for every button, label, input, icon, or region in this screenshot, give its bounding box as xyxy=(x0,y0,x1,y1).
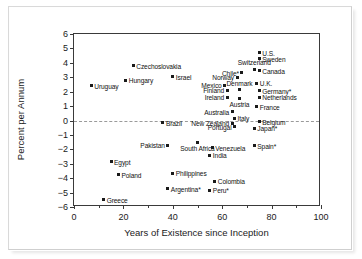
data-point xyxy=(255,105,258,108)
data-point-label: Uruguay xyxy=(94,82,118,89)
x-tick xyxy=(123,205,124,209)
data-point xyxy=(161,121,164,124)
y-tick xyxy=(70,92,74,93)
data-point xyxy=(253,144,256,147)
data-point xyxy=(226,96,229,99)
data-point xyxy=(171,172,174,175)
y-tick-label: −6 xyxy=(58,202,68,212)
data-point-label: Venezuela xyxy=(215,144,245,151)
data-point xyxy=(124,79,127,82)
data-point-label: Argentina* xyxy=(171,185,201,192)
y-tick-label: −3 xyxy=(58,159,68,169)
x-tick-label: 100 xyxy=(313,212,328,222)
y-tick xyxy=(70,48,74,49)
data-point-label: Ireland xyxy=(205,94,224,101)
y-tick xyxy=(70,77,74,78)
data-point xyxy=(258,51,261,54)
data-point xyxy=(238,97,241,100)
data-point xyxy=(231,110,234,113)
x-tick xyxy=(173,205,174,209)
data-point xyxy=(90,84,93,87)
data-point xyxy=(213,180,216,183)
data-point xyxy=(253,68,256,71)
y-tick-label: 5 xyxy=(63,43,68,53)
plot-area: 6543210−1−2−3−4−5−6 020406080100 Uruguay… xyxy=(73,33,320,206)
data-point-label: Portugal xyxy=(208,123,232,130)
data-point xyxy=(171,75,174,78)
y-tick xyxy=(70,164,74,165)
data-point xyxy=(110,160,113,163)
data-point xyxy=(238,88,241,91)
data-point xyxy=(208,189,211,192)
data-point-label: Hungary xyxy=(129,77,153,84)
data-point xyxy=(208,154,211,157)
y-tick-label: −5 xyxy=(58,188,68,198)
data-point xyxy=(258,89,261,92)
figure-root: Percent per Annum 6543210−1−2−3−4−5−6 02… xyxy=(0,0,362,259)
data-point-label: India xyxy=(213,152,227,159)
x-tick xyxy=(321,205,322,209)
data-point-label: Czechoslovakia xyxy=(136,62,181,69)
data-point xyxy=(166,144,169,147)
data-point xyxy=(258,69,261,72)
y-tick-label: −1 xyxy=(58,130,68,140)
y-tick-label: −2 xyxy=(58,144,68,154)
data-point xyxy=(255,82,258,85)
data-point xyxy=(236,76,239,79)
data-point-label: Peru* xyxy=(213,187,229,194)
y-tick-label: 2 xyxy=(63,87,68,97)
data-point-label: Poland xyxy=(121,171,141,178)
data-point-label: Colombia xyxy=(218,178,245,185)
data-point xyxy=(117,173,120,176)
data-point-label: South Africa xyxy=(180,145,214,152)
data-point-label: Austria xyxy=(230,101,250,108)
data-point-label: Switzerland xyxy=(238,59,271,66)
x-tick-label: 40 xyxy=(168,212,178,222)
data-point xyxy=(233,125,236,128)
y-axis-title-text: Percent per Annum xyxy=(16,79,27,160)
y-tick-label: 1 xyxy=(63,101,68,111)
y-tick-label: 0 xyxy=(63,116,68,126)
y-tick xyxy=(70,63,74,64)
data-point-label: Israel xyxy=(176,73,192,80)
data-point-label: Greece xyxy=(107,196,128,203)
data-point xyxy=(233,117,236,120)
y-tick-label: 4 xyxy=(63,58,68,68)
data-point-label: Brazil xyxy=(166,119,182,126)
x-tick-minor xyxy=(296,205,297,208)
data-point xyxy=(258,96,261,99)
data-point-label: Australia xyxy=(204,108,229,115)
data-point-label: Netherlands xyxy=(262,94,296,101)
y-tick-label: 6 xyxy=(63,29,68,39)
x-axis-title: Years of Existence since Inception xyxy=(73,227,320,238)
x-tick-label: 20 xyxy=(118,212,128,222)
y-axis-title: Percent per Annum xyxy=(14,33,28,206)
x-tick-label: 0 xyxy=(71,212,76,222)
data-point xyxy=(258,120,261,123)
x-tick xyxy=(222,205,223,209)
y-tick-label: 3 xyxy=(63,72,68,82)
data-point xyxy=(102,198,105,201)
x-tick xyxy=(74,205,75,209)
y-tick xyxy=(70,121,74,122)
y-tick xyxy=(70,34,74,35)
y-tick-label: −4 xyxy=(58,173,68,183)
data-point-label: Spain* xyxy=(257,142,276,149)
x-tick-minor xyxy=(247,205,248,208)
data-point xyxy=(196,141,199,144)
y-tick xyxy=(70,178,74,179)
data-point xyxy=(253,127,256,130)
data-point-label: Italy xyxy=(238,115,250,122)
x-tick-minor xyxy=(99,205,100,208)
data-point xyxy=(166,187,169,190)
data-point-label: Denmark xyxy=(226,80,252,87)
x-tick-label: 60 xyxy=(217,212,227,222)
data-point-label: Egypt xyxy=(114,158,130,165)
data-point xyxy=(226,89,229,92)
x-tick-minor xyxy=(198,205,199,208)
y-tick xyxy=(70,106,74,107)
x-tick xyxy=(272,205,273,209)
y-tick xyxy=(70,149,74,150)
x-tick-minor xyxy=(148,205,149,208)
data-point xyxy=(211,146,214,149)
